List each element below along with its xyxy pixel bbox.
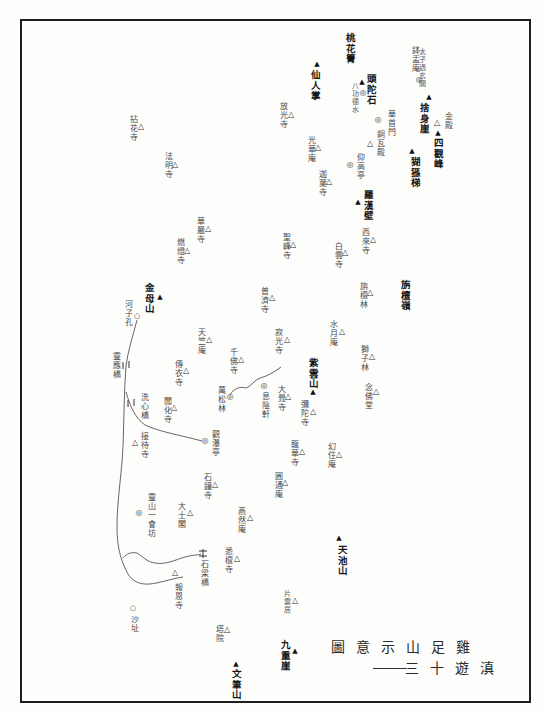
place-label: 靈山一會坊 xyxy=(146,493,154,538)
place-label: 塔院 xyxy=(214,625,222,643)
place-label: 金母山 xyxy=(144,283,154,315)
temple-icon xyxy=(186,509,194,517)
site-icon xyxy=(415,76,423,84)
temple-icon xyxy=(171,161,179,169)
place-label: 放光寺 xyxy=(278,102,286,129)
temple-icon xyxy=(314,144,322,152)
place-label: 大士閣 xyxy=(176,502,184,529)
peak-icon xyxy=(354,198,362,206)
place-label: 念佛堂 xyxy=(363,383,371,410)
temple-icon xyxy=(335,451,343,459)
place-label: 桃花箐 xyxy=(345,33,355,65)
temple-icon xyxy=(183,247,191,255)
place-label: 銅瓦殿 xyxy=(375,130,383,157)
place-label: 天竺庵 xyxy=(196,328,204,355)
peak-icon xyxy=(335,534,343,542)
temple-icon xyxy=(309,408,317,416)
place-label: 頭陀石 xyxy=(366,74,376,106)
temple-icon xyxy=(338,328,346,336)
place-label: 龍華寺 xyxy=(289,440,297,467)
site-icon xyxy=(201,437,209,445)
place-label: 華嚴寺 xyxy=(195,217,203,244)
place-label: 片雲居 xyxy=(283,590,290,614)
place-label: 迦葉寺 xyxy=(317,170,325,197)
place-label: 河子孔 xyxy=(123,300,131,327)
place-label: 傳衣寺 xyxy=(173,360,181,387)
peak-icon xyxy=(309,388,317,396)
point-icon xyxy=(133,312,141,320)
site-icon xyxy=(226,393,234,401)
temple-icon xyxy=(287,111,295,119)
place-label: 獅子林 xyxy=(359,345,367,372)
place-label: 猢猻梯 xyxy=(410,157,420,189)
place-label: 天池山 xyxy=(337,545,347,577)
site-icon xyxy=(359,89,367,97)
temple-icon xyxy=(325,178,333,186)
temple-icon xyxy=(281,479,289,487)
temple-icon xyxy=(223,626,231,634)
place-label: 聞化寺 xyxy=(162,397,170,424)
upper-branch-stream xyxy=(123,553,201,564)
temple-icon xyxy=(368,353,376,361)
temple-icon xyxy=(298,448,306,456)
temple-icon xyxy=(170,404,178,412)
place-label: 洗心橋 xyxy=(139,393,147,420)
place-label: 大覺寺 xyxy=(276,385,284,412)
temple-icon xyxy=(366,289,374,297)
temple-icon xyxy=(366,140,374,148)
place-label: 石梁橋 xyxy=(199,560,207,587)
temple-icon xyxy=(237,356,245,364)
place-label: 八功德水 xyxy=(351,82,358,114)
place-label: 四觀峰 xyxy=(433,138,443,170)
place-label: 沙址 xyxy=(129,615,137,633)
temple-icon xyxy=(204,225,212,233)
bridge-icon xyxy=(199,549,207,558)
place-label: 羅漢壁 xyxy=(363,190,373,222)
peak-icon xyxy=(313,60,321,68)
temple-icon xyxy=(372,388,380,396)
title-dash xyxy=(373,668,407,669)
place-label: 旃檀嶺 xyxy=(400,280,410,312)
peak-icon xyxy=(358,78,366,86)
temple-icon xyxy=(268,294,276,302)
place-label: 白雲寺 xyxy=(333,242,341,269)
temple-icon xyxy=(131,439,139,447)
place-label: 圓通庵 xyxy=(273,472,281,499)
temple-icon xyxy=(233,555,241,563)
place-label: 拈花寺 xyxy=(128,115,136,142)
temple-icon xyxy=(171,569,179,577)
place-label: 九重崖 xyxy=(280,640,290,672)
peak-icon xyxy=(425,93,433,101)
temple-icon xyxy=(369,236,377,244)
place-label: 水月庵 xyxy=(328,320,336,347)
place-label: 旃檀林 xyxy=(358,282,366,309)
place-label: 仰高亭 xyxy=(355,153,363,180)
place-label: 鉢盂庵 xyxy=(410,46,418,73)
temple-icon xyxy=(291,597,299,605)
place-label: 悉檀寺 xyxy=(223,547,231,574)
place-label: 華首門 xyxy=(386,110,394,137)
place-label: 靈應橋 xyxy=(111,352,119,379)
temple-icon xyxy=(246,514,254,522)
place-label: 燃燈寺 xyxy=(175,238,183,265)
place-label: 千佛寺 xyxy=(228,348,236,375)
place-label: 文筆山 xyxy=(231,669,241,701)
temple-icon xyxy=(433,119,441,127)
place-label: 寂光寺 xyxy=(273,328,281,355)
place-label: 捨身崖 xyxy=(419,103,429,135)
place-label: 幻住庵 xyxy=(326,442,334,469)
place-label: 息陰軒 xyxy=(260,392,268,419)
place-label: 仙人掌 xyxy=(310,70,320,102)
site-icon xyxy=(346,161,354,169)
map-series-label: 滇遊十三 xyxy=(405,661,505,675)
place-label: 金殿 xyxy=(443,112,451,130)
place-label: 光華庵 xyxy=(306,136,314,163)
map-title: 雞足山示意圖 xyxy=(331,640,481,654)
temple-icon xyxy=(284,393,292,401)
place-label: 法明寺 xyxy=(163,152,171,179)
temple-icon xyxy=(289,241,297,249)
temple-icon xyxy=(341,249,349,257)
place-label: 普濟寺 xyxy=(259,287,267,314)
temple-icon xyxy=(137,123,145,131)
place-label: 紫雲山 xyxy=(308,358,318,390)
